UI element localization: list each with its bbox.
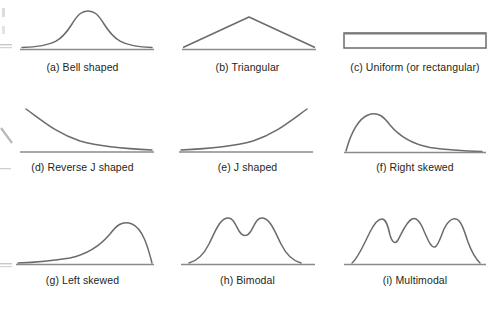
panel-multimodal: (i) Multimodal: [330, 200, 500, 313]
panel-left-skewed: (g) Left skewed: [0, 200, 165, 313]
panel-bimodal: (h) Bimodal: [165, 200, 330, 313]
distribution-shapes-figure: (a) Bell shaped (b) Triangular (c) Unifo…: [0, 0, 500, 313]
curve-left-skewed: [0, 200, 165, 313]
panel-caption: (d) Reverse J shaped: [0, 161, 165, 173]
panel-caption: (a) Bell shaped: [0, 61, 165, 73]
curve-uniform: [330, 0, 500, 100]
panel-caption: (g) Left skewed: [0, 274, 165, 286]
curve-triangular: [165, 0, 330, 100]
panel-j-shaped: (e) J shaped: [165, 100, 330, 200]
panel-right-skewed: (f) Right skewed: [330, 100, 500, 200]
curve-bimodal: [165, 200, 330, 313]
panel-caption: (i) Multimodal: [330, 274, 500, 286]
curve-right-skewed: [330, 100, 500, 200]
curve-reverse-j-shaped: [0, 100, 165, 200]
panel-caption: (h) Bimodal: [165, 274, 330, 286]
panel-caption: (c) Uniform (or rectangular): [330, 61, 500, 73]
panel-uniform: (c) Uniform (or rectangular): [330, 0, 500, 100]
curve-bell-shaped: [0, 0, 165, 100]
panel-triangular: (b) Triangular: [165, 0, 330, 100]
panel-caption: (b) Triangular: [165, 61, 330, 73]
panel-reverse-j-shaped: (d) Reverse J shaped: [0, 100, 165, 200]
curve-j-shaped: [165, 100, 330, 200]
panel-caption: (f) Right skewed: [330, 161, 500, 173]
panel-bell-shaped: (a) Bell shaped: [0, 0, 165, 100]
panel-caption: (e) J shaped: [165, 161, 330, 173]
curve-multimodal: [330, 200, 500, 313]
